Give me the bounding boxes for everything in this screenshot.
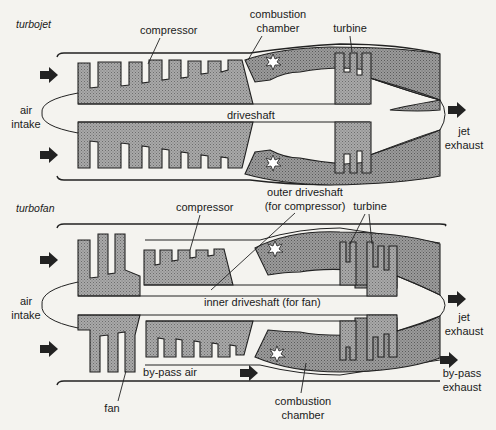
turbofan-bypass-exhaust-label-2: exhaust [443,381,482,393]
turbofan-inner-driveshaft-label: inner driveshaft (for fan) [204,296,321,308]
turbojet-combustion-label-2: chamber [257,22,300,34]
turbofan-casing-bottom [57,381,440,385]
turbofan-fan-label: fan [104,402,119,414]
turbofan-nose [42,282,78,328]
turbojet-compressor-label: compressor [140,24,198,36]
turbofan-bypass-exhaust-arrow-icon [440,352,458,368]
turbojet-jet-exhaust-label-2: exhaust [445,139,484,151]
turbojet-intake-arrow-bottom-icon [40,147,58,163]
turbofan-combustion-label-1: combustion [275,395,331,407]
turbofan-combustion-label-2: chamber [282,409,325,421]
turbofan-air-intake-label-2: intake [11,309,40,321]
turbofan-turbine-2-bottom [367,315,397,360]
turbofan-compressor-bottom [146,321,253,357]
engine-diagrams: turbojet compressor combustion chamber t… [0,0,496,430]
turbofan-compressor-leader [190,215,200,250]
turbofan-bypass-air-label: by-pass air [143,366,197,378]
turbojet-intake-arrow-top-icon [40,67,58,83]
turbojet-turbine-label: turbine [333,22,367,34]
turbojet-combustion-label-1: combustion [250,8,306,20]
turbojet-turbine-bottom [335,122,371,173]
turbofan-turbine-2-top [367,242,397,296]
turbojet-air-intake-label-2: intake [11,118,40,130]
turbofan-casing-top [57,224,446,228]
turbojet-nose [42,93,78,133]
turbojet-diagram: turbojet compressor combustion chamber t… [11,8,483,185]
turbofan-compressor-top [144,249,233,285]
turbofan-title: turbofan [16,202,55,214]
turbofan-fan-bottom [78,315,140,372]
turbofan-fan-top [78,234,140,296]
turbofan-bypass-air-arrow-icon [240,365,258,381]
turbofan-bypass-exhaust-label-1: by-pass [443,367,482,379]
turbojet-compressor-top [78,60,253,104]
turbofan-intake-arrow-bottom-icon [40,341,58,357]
turbofan-intake-arrow-top-icon [40,252,58,268]
turbofan-air-intake-label-1: air [20,295,33,307]
turbojet-compressor-bottom [78,122,253,168]
turbofan-outer-driveshaft-label-2: (for compressor) [265,200,346,212]
turbofan-jet-exhaust-label-2: exhaust [445,325,484,337]
turbojet-title: turbojet [16,18,52,30]
turbojet-jet-exhaust-label-1: jet [457,125,470,137]
turbojet-air-intake-label-1: air [20,104,33,116]
turbofan-turbine-label: turbine [353,200,387,212]
turbojet-driveshaft-label: driveshaft [227,109,275,121]
turbofan-jet-exhaust-arrow-icon [448,291,466,307]
turbofan-outer-driveshaft-label-1: outer driveshaft [267,186,343,198]
turbofan-jet-exhaust-label-1: jet [457,311,470,323]
turbojet-turbine-top [335,53,371,104]
turbojet-exhaust-arrow-icon [448,102,466,118]
turbofan-diagram: turbofan compressor outer driveshaft (fo… [11,186,483,421]
turbofan-fan-leader [118,371,126,401]
turbofan-compressor-label: compressor [176,201,234,213]
